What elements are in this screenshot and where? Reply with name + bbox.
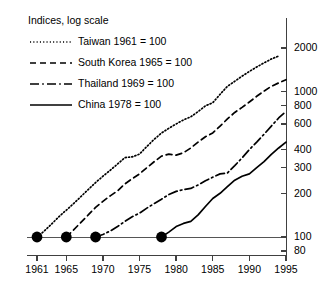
legend-entry-list: Taiwan 1961 = 100South Korea 1965 = 100T… <box>30 35 192 110</box>
y-tick-label: 800 <box>294 99 312 111</box>
series-line <box>96 112 286 237</box>
y-tick-label: 600 <box>294 117 312 129</box>
y-tick-label: 100 <box>294 230 312 242</box>
x-tick-label: 1995 <box>274 263 298 275</box>
baseline-marker-dot <box>156 232 167 243</box>
legend-title: Indices, log scale <box>28 14 109 26</box>
x-axis-ticks: 19611965197019751980198519901995 <box>25 255 298 275</box>
x-tick-label: 1990 <box>238 263 262 275</box>
log-scale-line-chart: Indices, log scale Taiwan 1961 = 100Sout… <box>0 0 332 287</box>
legend-entry-label: Thailand 1969 = 100 <box>78 77 174 89</box>
x-tick-label: 1985 <box>201 263 225 275</box>
baseline-marker-dot <box>61 232 72 243</box>
baseline-marker-dot <box>32 232 43 243</box>
legend-entry-label: Taiwan 1961 = 100 <box>78 35 167 47</box>
baseline-marker-dot <box>90 232 101 243</box>
y-tick-label: 400 <box>294 143 312 155</box>
x-tick-label: 1961 <box>25 263 49 275</box>
x-tick-label: 1975 <box>128 263 152 275</box>
y-tick-label: 2000 <box>294 41 318 53</box>
y-tick-label: 300 <box>294 161 312 173</box>
chart-canvas: Indices, log scale Taiwan 1961 = 100Sout… <box>0 0 332 287</box>
y-tick-label: 1000 <box>294 85 318 97</box>
y-tick-label: 80 <box>294 244 306 256</box>
legend-entry-label: China 1978 = 100 <box>78 98 161 110</box>
x-tick-label: 1965 <box>55 263 79 275</box>
x-tick-label: 1980 <box>164 263 188 275</box>
y-tick-label: 200 <box>294 187 312 199</box>
chart-legend: Indices, log scale Taiwan 1961 = 100Sout… <box>28 14 192 110</box>
x-tick-label: 1970 <box>91 263 115 275</box>
legend-entry-label: South Korea 1965 = 100 <box>78 56 192 68</box>
